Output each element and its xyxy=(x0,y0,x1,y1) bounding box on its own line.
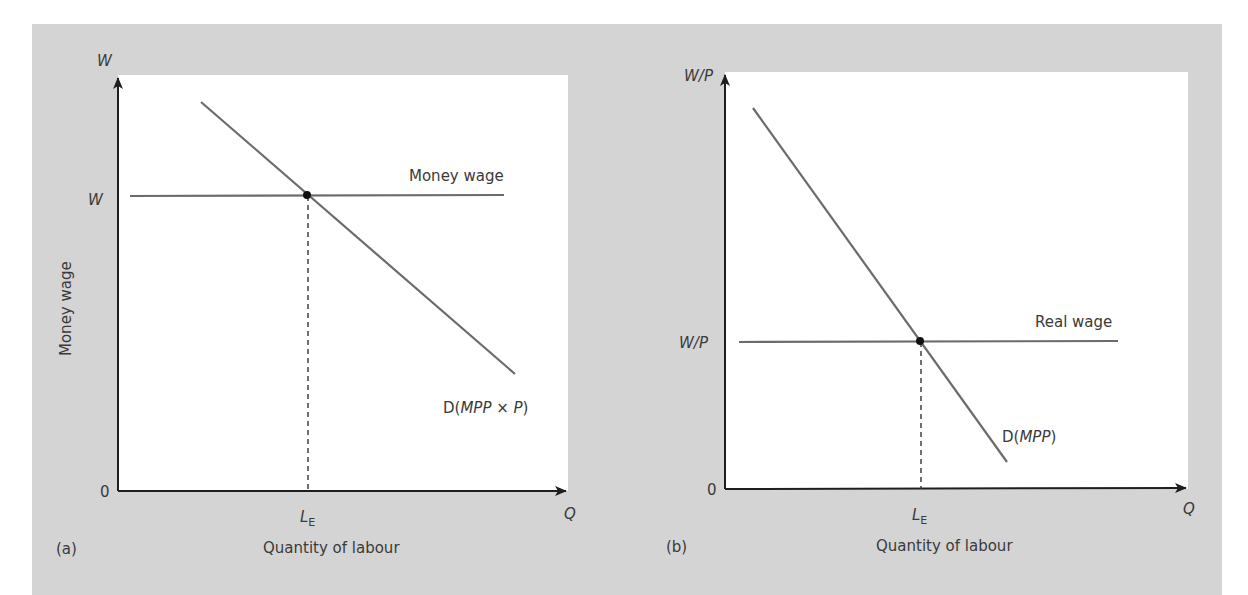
panel-b-plot-area xyxy=(725,72,1188,489)
panel-a-y-axis-label: Money wage xyxy=(57,261,75,356)
panel-a-equilibrium-point xyxy=(303,191,311,199)
panel-b-equilibrium-point xyxy=(916,337,924,345)
panel-b-label: (b) xyxy=(666,538,687,556)
panel-a-origin-label: 0 xyxy=(100,483,110,501)
panel-b-x-axis xyxy=(725,488,1186,489)
panel-b-y-tick-label: W/P xyxy=(679,334,709,352)
panel-a: W W 0 Q LE Quantity of labour Money wage… xyxy=(56,52,576,558)
panel-b-origin-label: 0 xyxy=(707,481,717,499)
panel-a-y-tick-label: W xyxy=(88,191,104,209)
panel-b-x-axis-label: Quantity of labour xyxy=(876,537,1013,555)
labour-demand-figure: W W 0 Q LE Quantity of labour Money wage… xyxy=(0,0,1248,595)
panel-a-label: (a) xyxy=(56,540,77,558)
panel-b-y-axis-title: W/P xyxy=(684,67,714,85)
panel-b-demand-label: D(MPP) xyxy=(1002,428,1056,446)
panel-a-x-axis-label: Quantity of labour xyxy=(263,539,400,557)
panel-a-money-wage-line xyxy=(130,195,504,196)
panel-b-real-wage-line xyxy=(739,341,1118,342)
panel-b-real-wage-label: Real wage xyxy=(1035,313,1112,331)
panel-a-y-axis-title: W xyxy=(97,52,113,70)
panel-a-x-axis-title: Q xyxy=(564,505,576,523)
panel-a-money-wage-label: Money wage xyxy=(409,167,504,185)
panel-a-plot-area xyxy=(118,75,568,491)
panel-b: W/P W/P 0 Q LE Quantity of labour (b) Re… xyxy=(666,67,1195,556)
panel-b-x-axis-title: Q xyxy=(1183,500,1195,518)
panel-a-demand-label: D(MPP × P) xyxy=(443,399,528,417)
